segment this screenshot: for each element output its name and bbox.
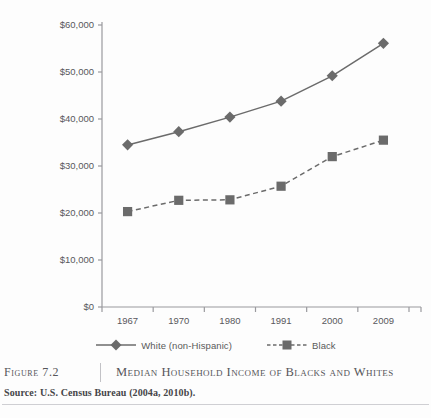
data-point-marker[interactable] — [327, 70, 338, 81]
data-point-marker[interactable] — [379, 136, 388, 145]
x-tick-label: 2000 — [322, 315, 343, 326]
series-line-2 — [128, 140, 384, 211]
x-tick-label: 1970 — [168, 315, 189, 326]
data-point-marker[interactable] — [174, 196, 183, 205]
y-tick-label: $0 — [83, 301, 94, 312]
data-point-marker[interactable] — [173, 126, 184, 137]
figure-source: Source: U.S. Census Bureau (2004a, 2010b… — [4, 387, 195, 398]
data-point-marker[interactable] — [275, 96, 286, 107]
figure-caption-row: Figure 7.2 Median Household Income of Bl… — [4, 360, 427, 384]
x-tick-label: 1991 — [271, 315, 292, 326]
legend-label-white: White (non-Hispanic) — [141, 340, 232, 351]
caption-divider — [100, 363, 101, 382]
figure-container: $0$10,000$20,000$30,000$40,000$50,000$60… — [0, 0, 431, 418]
y-axis: $0$10,000$20,000$30,000$40,000$50,000$60… — [60, 19, 102, 312]
x-axis: 196719701980199120002009 — [102, 307, 421, 326]
series-line-1 — [128, 43, 384, 145]
legend-label-black: Black — [312, 340, 336, 351]
data-point-marker[interactable] — [123, 207, 132, 216]
data-point-marker[interactable] — [225, 195, 234, 204]
legend-swatch-square-dashed — [266, 338, 308, 352]
bottom-rule — [2, 404, 429, 405]
data-point-marker[interactable] — [328, 152, 337, 161]
data-series-group — [122, 38, 389, 216]
figure-number: Figure 7.2 — [4, 365, 100, 380]
y-tick-label: $10,000 — [60, 254, 94, 265]
data-point-marker[interactable] — [378, 38, 389, 49]
data-point-marker[interactable] — [122, 139, 133, 150]
y-tick-label: $40,000 — [60, 113, 94, 124]
y-tick-label: $20,000 — [60, 207, 94, 218]
figure-title: Median Household Income of Blacks and Wh… — [116, 365, 394, 380]
legend-entry-white[interactable]: White (non-Hispanic) — [95, 338, 232, 352]
chart-plot-area: $0$10,000$20,000$30,000$40,000$50,000$60… — [0, 0, 431, 332]
x-tick-label: 2009 — [373, 315, 394, 326]
y-tick-label: $60,000 — [60, 19, 94, 30]
x-tick-label: 1967 — [117, 315, 138, 326]
data-point-marker[interactable] — [276, 182, 285, 191]
income-line-chart: $0$10,000$20,000$30,000$40,000$50,000$60… — [0, 0, 431, 332]
y-tick-label: $50,000 — [60, 66, 94, 77]
chart-legend: White (non-Hispanic) Black — [0, 334, 431, 356]
legend-swatch-diamond-solid — [95, 338, 137, 352]
legend-entry-black[interactable]: Black — [266, 338, 336, 352]
y-tick-label: $30,000 — [60, 160, 94, 171]
x-tick-label: 1980 — [219, 315, 240, 326]
data-point-marker[interactable] — [224, 112, 235, 123]
